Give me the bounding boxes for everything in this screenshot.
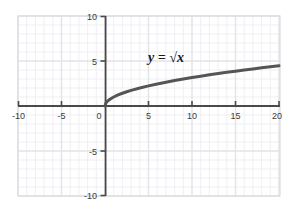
y-tick-label-10: 10 (87, 12, 97, 22)
sqrt-function-graph: -10 -5 0 5 10 15 20 10 5 -5 -10 y = √x (0, 0, 297, 204)
x-tick-label-neg5: -5 (57, 111, 65, 121)
x-tick-label-20: 20 (272, 111, 282, 121)
y-tick-label-neg5: -5 (89, 147, 97, 157)
y-tick-label-5: 5 (92, 57, 97, 67)
y-tick-label-neg10: -10 (84, 191, 97, 201)
chart-canvas: -10 -5 0 5 10 15 20 10 5 -5 -10 y = √x (0, 0, 297, 204)
x-tick-label-0: 0 (96, 111, 101, 121)
x-tick-label-15: 15 (230, 111, 240, 121)
x-tick-label-10: 10 (187, 111, 197, 121)
x-tick-label-5: 5 (146, 111, 151, 121)
x-tick-label-neg10: -10 (12, 111, 25, 121)
equation-annotation: y = √x (146, 50, 184, 65)
